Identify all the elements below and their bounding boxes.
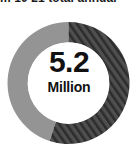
donut-chart-svg [0,0,136,154]
donut-hole [28,42,109,123]
donut-chart: 5.2 Million [0,0,136,154]
chart-card: m 10 21 total annual 5.2 Million [0,0,136,154]
